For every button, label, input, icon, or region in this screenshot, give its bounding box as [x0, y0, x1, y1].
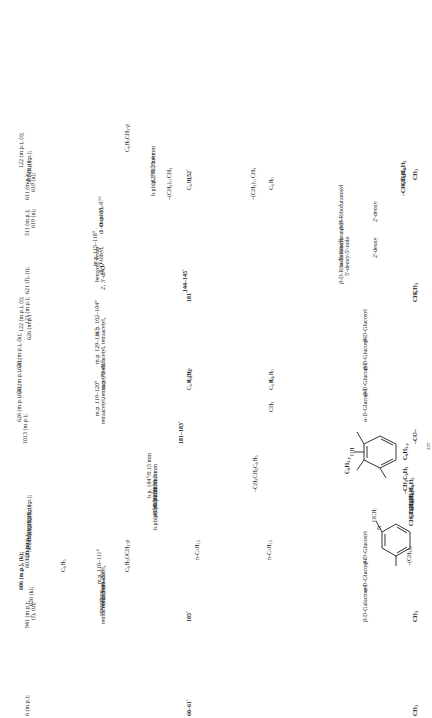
- cell-substituent: 2'-deoxy: [372, 237, 379, 258]
- cell-substituent: 2'-deoxy: [372, 201, 379, 222]
- cell-r2: n-C7H15: [194, 540, 202, 560]
- cell-r2: C6H5: [186, 369, 194, 382]
- methoxy-pyridine-structure: OCH3 N: [372, 508, 430, 568]
- cell-constant: b.p. 190°/0.4 mm: [150, 146, 157, 188]
- reference-table: CH3 CH3 β-D-Galactosyl α-D-Glucosyl β-D-…: [0, 0, 432, 718]
- cell-reference: 6 (m.p.);: [24, 695, 31, 716]
- cell-constant: 105°: [184, 611, 193, 622]
- cell-r1: C6H5: [268, 369, 276, 382]
- cell-constant: 181°: [184, 291, 193, 302]
- phenyl-substituent-label: C6H5-y: [402, 443, 410, 460]
- cell-derivative: m.p. 110–111°: [96, 549, 103, 584]
- cell-derivative: m.p. 115–118°: [92, 231, 99, 266]
- cell-derivative: m.p. 85–87°: [98, 196, 105, 226]
- cell-r2: –(CH2)11CH3: [166, 168, 174, 200]
- cell-r1: –(CH2)11CH3: [250, 168, 258, 200]
- cell-constant: b.p. 184°/0.15 mm: [146, 453, 153, 498]
- cell-r1: C6H5CH3-p: [124, 124, 132, 152]
- cell-r1: C6H5: [268, 177, 276, 190]
- scanned-table-page: CH3 CH3 β-D-Galactosyl α-D-Glucosyl β-D-…: [0, 0, 432, 718]
- cell-substituent: CH3: [412, 283, 420, 294]
- svg-text:OH: OH: [350, 447, 355, 456]
- svg-text:N: N: [376, 525, 382, 530]
- cell-substituent: CH3: [412, 705, 420, 716]
- cell-reference: 581 (b.p.);: [26, 495, 33, 520]
- cell-r1: n-C7H15: [266, 540, 274, 560]
- cell-reference: 619 (u);: [30, 209, 37, 228]
- cell-substituent: CH3: [412, 169, 420, 180]
- cell-reference: 621 (f), (t);: [24, 267, 31, 294]
- page-marker: 227: [425, 443, 432, 451]
- cell-substituent: CH3: [412, 611, 420, 622]
- cell-substituent: β-D-Glucosyl: [362, 531, 369, 564]
- cell-constant: 60–61°: [184, 699, 193, 716]
- cell-reference: 626 (k);: [28, 587, 35, 606]
- cell-substituent: β-D-Ribofuranosyl: [338, 184, 345, 230]
- phenyl-substituent-label: C6H5-y: [344, 457, 352, 474]
- cell-r1: C6H5OCH3-p: [124, 540, 132, 573]
- cell-constant: 181–183°: [176, 421, 185, 444]
- cell-substituent: –CH3C6H5: [400, 161, 408, 188]
- cell-r1: –CH2CH2C6H5: [252, 455, 260, 492]
- cell-derivative: m.p. 102–104°: [94, 300, 101, 336]
- cell-reference: 122 (m.p.), (t);: [18, 133, 25, 169]
- cell-substituent: β-D-Glucosyl: [362, 309, 369, 342]
- cell-constant: 144–145°: [180, 269, 189, 292]
- cell-reference: 121 (m.p.);: [24, 297, 31, 324]
- cell-reference: 626 (m.p.), (k);: [16, 333, 23, 370]
- cell-reference: 581 (b.p.);: [26, 151, 33, 176]
- svg-text:OCH3: OCH3: [372, 508, 378, 522]
- cell-constant: 152°: [184, 169, 193, 180]
- cell-r1: CH3: [268, 402, 276, 413]
- cell-r2: C6H5: [60, 559, 68, 572]
- pyridine-side-chain-label: –(CH2)n: [406, 546, 414, 566]
